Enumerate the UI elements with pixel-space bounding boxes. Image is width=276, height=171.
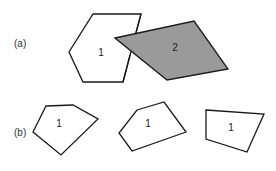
- diagram-figure: (a) 1 2 (b) 1 1 1: [0, 0, 276, 171]
- panel-a: (a) 1 2: [14, 14, 228, 82]
- pentagon-middle-polygon: [119, 102, 186, 151]
- quadrilateral-right-polygon: [206, 110, 264, 152]
- panel-a-label: (a): [14, 38, 26, 49]
- quadrilateral-right-label: 1: [228, 122, 234, 133]
- pentagon-left-label: 1: [56, 118, 62, 129]
- pentagon-middle-label: 1: [145, 118, 151, 129]
- panel-b-label: (b): [14, 127, 26, 138]
- panel-b: (b) 1 1 1: [14, 102, 264, 155]
- hexagon-label: 1: [98, 47, 104, 58]
- pentagon-left-polygon: [33, 105, 98, 155]
- parallelogram-label: 2: [172, 42, 178, 53]
